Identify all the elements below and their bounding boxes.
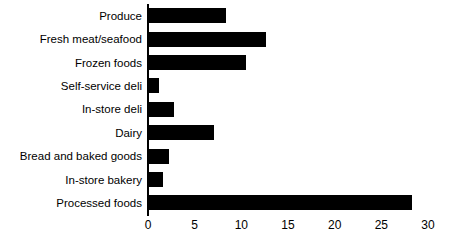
x-tick-label: 10 — [221, 218, 261, 232]
bar-chart-figure: ProduceFresh meat/seafoodFrozen foodsSel… — [0, 0, 451, 246]
x-tick-label: 5 — [175, 218, 215, 232]
bar — [148, 102, 174, 117]
bar — [148, 32, 266, 47]
bar — [148, 125, 214, 140]
bar — [148, 195, 412, 210]
x-tick-label: 15 — [268, 218, 308, 232]
category-label: In-store deli — [0, 103, 142, 115]
bar — [148, 8, 226, 23]
bar — [148, 172, 163, 187]
bar — [148, 78, 159, 93]
category-label: Self-service deli — [0, 80, 142, 92]
x-tick-label: 0 — [128, 218, 168, 232]
x-axis-tick-labels: 051015202530 — [0, 218, 451, 236]
category-label: Processed foods — [0, 197, 142, 209]
category-label: Produce — [0, 10, 142, 22]
category-axis-labels: ProduceFresh meat/seafoodFrozen foodsSel… — [0, 4, 142, 216]
bar — [148, 149, 169, 164]
category-label: Bread and baked goods — [0, 150, 142, 162]
x-tick-label: 20 — [315, 218, 355, 232]
plot-area: ProduceFresh meat/seafoodFrozen foodsSel… — [0, 0, 451, 246]
bars-group — [148, 4, 448, 216]
x-tick-label: 25 — [361, 218, 401, 232]
x-tick-label: 30 — [408, 218, 448, 232]
category-label: Fresh meat/seafood — [0, 33, 142, 45]
category-label: In-store bakery — [0, 174, 142, 186]
category-label: Frozen foods — [0, 57, 142, 69]
bar — [148, 55, 246, 70]
category-label: Dairy — [0, 127, 142, 139]
